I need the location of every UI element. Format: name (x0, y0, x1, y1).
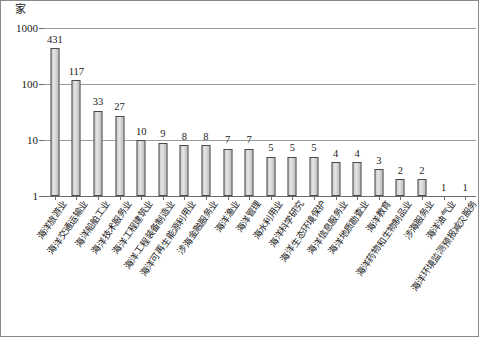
bar[interactable] (417, 179, 426, 196)
bar-slot: 27 (109, 28, 131, 196)
bar[interactable] (396, 179, 405, 196)
bar-value-label: 4 (355, 149, 360, 160)
gridline-1 (44, 196, 476, 197)
bar[interactable] (137, 140, 146, 196)
bar-slot: 8 (195, 28, 217, 196)
bar-slot: 1 (454, 28, 476, 196)
y-axis-unit-label: 家 (15, 4, 26, 15)
bar-slot: 5 (260, 28, 282, 196)
bar[interactable] (374, 169, 383, 196)
bar-slot: 2 (390, 28, 412, 196)
bar[interactable] (93, 111, 102, 196)
bar[interactable] (353, 162, 362, 196)
bar[interactable] (223, 149, 232, 196)
bar[interactable] (245, 149, 254, 196)
bar-slot: 1 (433, 28, 455, 196)
bar-value-label: 5 (268, 143, 273, 154)
bar-slot: 5 (282, 28, 304, 196)
y-tick-label-1000: 1000 (16, 23, 38, 34)
bar-slot: 8 (174, 28, 196, 196)
plot-area: 1000100101 431117332710988775554432211 (44, 28, 476, 196)
bar-value-label: 2 (419, 166, 424, 177)
bar-value-label: 9 (160, 129, 165, 140)
bar[interactable] (309, 157, 318, 196)
bar[interactable] (158, 143, 167, 196)
bar-value-label: 8 (182, 132, 187, 143)
bar-slot: 117 (66, 28, 88, 196)
bar-value-label: 3 (376, 156, 381, 167)
bar[interactable] (266, 157, 275, 196)
y-tick-label-100: 100 (22, 79, 39, 90)
x-axis-labels-group: 海洋旅游业海洋交通运输业海洋船舶工业海洋技术服务业海洋工程建筑业海洋工程装备制造… (44, 199, 476, 331)
bar[interactable] (72, 80, 81, 196)
bar[interactable] (288, 157, 297, 196)
bar-value-label: 10 (136, 127, 147, 138)
bar[interactable] (115, 116, 124, 196)
bar-slot: 33 (87, 28, 109, 196)
bar-value-label: 1 (441, 183, 446, 194)
bar-slot: 7 (217, 28, 239, 196)
bar-slot: 431 (44, 28, 66, 196)
bar-value-label: 33 (93, 97, 104, 108)
bar[interactable] (331, 162, 340, 196)
bar-slot: 4 (325, 28, 347, 196)
bar[interactable] (180, 145, 189, 196)
bar-value-label: 27 (114, 102, 125, 113)
bar-slot: 5 (303, 28, 325, 196)
bar[interactable] (201, 145, 210, 196)
bar-value-label: 1 (463, 183, 468, 194)
chart-figure: 家 1000100101 431117332710988775554432211… (0, 0, 479, 337)
bar-value-label: 117 (69, 67, 84, 78)
bar-slot: 4 (346, 28, 368, 196)
bar-value-label: 8 (203, 132, 208, 143)
y-tick-label-1: 1 (33, 191, 39, 202)
bar-slot: 3 (368, 28, 390, 196)
bar-value-label: 5 (290, 143, 295, 154)
y-tick-mark-1 (39, 196, 44, 197)
bar-value-label: 431 (47, 35, 63, 46)
bar-value-label: 2 (398, 166, 403, 177)
bar-value-label: 4 (333, 149, 338, 160)
bar[interactable] (50, 48, 59, 196)
bar-slot: 10 (130, 28, 152, 196)
y-tick-label-10: 10 (27, 135, 38, 146)
bar-value-label: 7 (247, 135, 252, 146)
bar-slot: 7 (238, 28, 260, 196)
bar-value-label: 7 (225, 135, 230, 146)
bar-slot: 9 (152, 28, 174, 196)
bar-value-label: 5 (311, 143, 316, 154)
bar-slot: 2 (411, 28, 433, 196)
bars-group: 431117332710988775554432211 (44, 28, 476, 196)
